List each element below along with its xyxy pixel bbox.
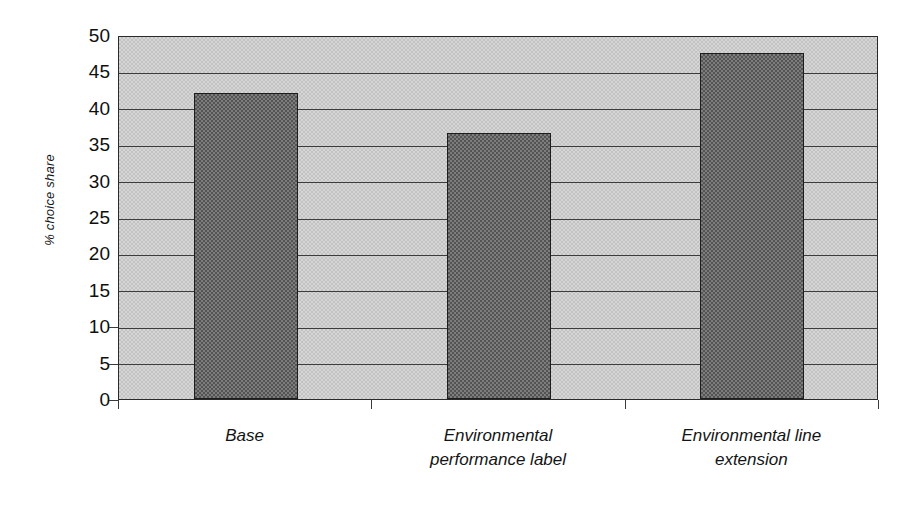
y-axis-tick-label-group: 05101520253035404550 <box>52 36 110 400</box>
x-axis-category-label: Base <box>118 412 371 492</box>
bar <box>447 133 551 399</box>
y-axis-tick-label: 5 <box>52 354 110 373</box>
x-axis-category-label-line: performance label <box>371 448 624 472</box>
plot-area <box>118 36 878 400</box>
x-axis-category-label: Environmental lineextension <box>625 412 878 492</box>
y-axis-tick-label: 30 <box>52 172 110 191</box>
y-axis-tick-label: 0 <box>52 390 110 409</box>
bar-chart-figure: % choice share 05101520253035404550 Base… <box>0 0 923 506</box>
y-axis-tickmark <box>109 364 118 365</box>
x-axis-tickmark <box>625 400 626 409</box>
y-axis-tick-label: 50 <box>52 26 110 45</box>
x-axis-category-label-group: BaseEnvironmentalperformance labelEnviro… <box>118 412 878 492</box>
bar <box>194 93 298 399</box>
y-axis-tick-label: 15 <box>52 281 110 300</box>
x-axis-category-label-line: Base <box>118 424 371 448</box>
bar <box>700 53 804 399</box>
y-axis-tick-label: 25 <box>52 208 110 227</box>
y-axis-tick-label: 10 <box>52 317 110 336</box>
y-axis-tick-label: 45 <box>52 62 110 81</box>
y-axis-tickmark <box>109 400 118 401</box>
x-axis-category-label: Environmentalperformance label <box>371 412 624 492</box>
x-axis-category-label-line: Environmental line <box>625 424 878 448</box>
x-axis-tickmark <box>371 400 372 409</box>
y-axis-tick-label: 40 <box>52 99 110 118</box>
x-axis-category-label-line: extension <box>625 448 878 472</box>
y-axis-tickmark <box>109 327 118 328</box>
x-axis-tickmark <box>118 400 119 409</box>
x-axis-category-label-line: Environmental <box>371 424 624 448</box>
y-axis-tick-label: 20 <box>52 244 110 263</box>
y-axis-tick-label: 35 <box>52 135 110 154</box>
x-axis-tickmark <box>878 400 879 409</box>
